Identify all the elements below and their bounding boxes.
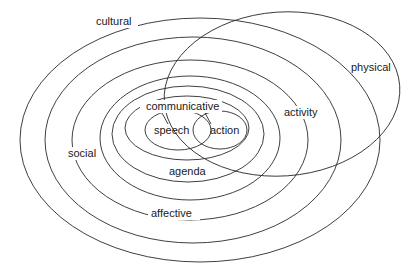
label-cultural: cultural xyxy=(96,15,131,27)
label-action: action xyxy=(210,124,239,136)
label-speech: speech xyxy=(154,124,189,136)
label-physical: physical xyxy=(351,61,391,73)
ellipse-cultural xyxy=(20,18,380,262)
label-communicative: communicative xyxy=(146,100,219,112)
label-agenda: agenda xyxy=(169,165,207,177)
label-social: social xyxy=(68,147,96,159)
pointer-communicative-speech xyxy=(162,113,168,124)
label-affective: affective xyxy=(151,207,192,219)
ellipse-affective xyxy=(72,60,308,220)
label-activity: activity xyxy=(284,106,318,118)
ellipse-activity xyxy=(100,76,280,200)
pointer-communicative-action xyxy=(205,113,211,124)
context-layers-diagram: cultural physical activity social commun… xyxy=(0,0,414,263)
